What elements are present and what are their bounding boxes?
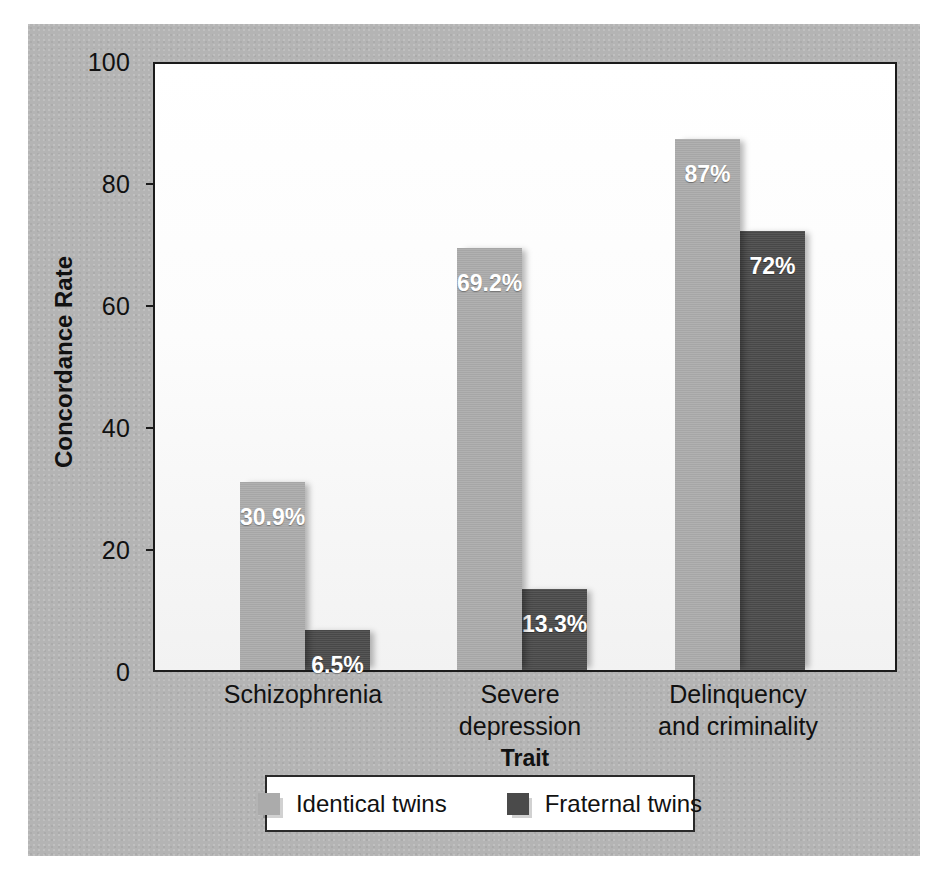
bar-value-label: 69.2% [457,270,522,297]
x-axis-category-label: Delinquencyand criminality [588,678,888,742]
legend-label: Identical twins [296,790,447,818]
bar-value-label: 72% [740,253,805,280]
bar-identical-twins: 87% [675,139,740,670]
y-axis-title: Concordance Rate [50,256,78,468]
y-axis-tick-label: 40 [102,414,130,443]
plot-area: 30.9%6.5%69.2%13.3%87%72% [153,62,897,672]
bar-texture [457,248,522,670]
bar-fraternal-twins: 72% [740,231,805,670]
y-axis-title-wrap: Concordance Rate [78,62,80,672]
legend-swatch [507,793,529,815]
x-axis-category-line: Delinquency [588,678,888,710]
x-axis-title: Trait [153,745,897,772]
legend-label: Fraternal twins [545,790,702,818]
bar-identical-twins: 69.2% [457,248,522,670]
y-axis-tick-label: 60 [102,292,130,321]
bar-fraternal-twins: 13.3% [522,589,587,670]
bar-fraternal-twins: 6.5% [305,630,370,670]
bar-texture [740,231,805,670]
legend-swatch [258,793,280,815]
y-axis-labels: 020406080100 [28,62,146,672]
y-axis-tick-label: 20 [102,536,130,565]
bar-value-label: 30.9% [240,504,305,531]
x-axis-categories: SchizophreniaSeveredepressionDelinquency… [153,678,897,752]
bar-value-label: 13.3% [522,611,587,638]
chart-legend: Identical twinsFraternal twins [265,775,695,832]
legend-item-fraternal-twins: Fraternal twins [507,790,702,818]
bar-identical-twins: 30.9% [240,482,305,670]
y-axis-tick-label: 100 [88,48,130,77]
chart-screenshot: 020406080100 Concordance Rate 30.9%6.5%6… [0,0,949,874]
bar-value-label: 87% [675,161,740,188]
y-axis-tick-label: 0 [116,658,130,687]
x-axis-category-line: and criminality [588,710,888,742]
legend-item-identical-twins: Identical twins [258,790,447,818]
bar-texture [675,139,740,670]
bar-value-label: 6.5% [305,652,370,679]
y-axis-tick-label: 80 [102,170,130,199]
bars-container: 30.9%6.5%69.2%13.3%87%72% [155,64,895,670]
